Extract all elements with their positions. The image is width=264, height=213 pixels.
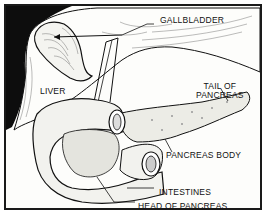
pancreas-illustration xyxy=(6,6,260,208)
label-tail-of-pancreas: TAIL OF PANCREAS xyxy=(196,82,244,100)
label-pancreas-body: PANCREAS BODY xyxy=(166,151,241,160)
label-head-of-pancreas: HEAD OF PANCREAS xyxy=(138,202,227,210)
label-intestines: INTESTINES xyxy=(159,188,211,197)
diagram-frame: GALLBLADDER LIVER TAIL OF PANCREAS PANCR… xyxy=(4,4,262,210)
label-tail-line2: PANCREAS xyxy=(196,91,244,100)
label-liver: LIVER xyxy=(40,87,66,96)
label-gallbladder: GALLBLADDER xyxy=(160,16,224,25)
